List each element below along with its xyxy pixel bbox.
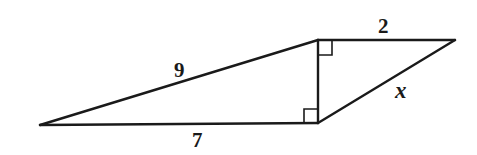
label-7: 7 (192, 128, 203, 152)
label-9: 9 (174, 58, 185, 82)
right-angle-marker-top (318, 40, 332, 55)
geometry-diagram: 9 7 2 x (0, 0, 477, 155)
segment-bd-hypotenuse (318, 40, 455, 123)
diagram-canvas: 9 7 2 x (0, 0, 477, 155)
segment-ab-base (40, 123, 318, 125)
segment-ac-hypotenuse (40, 40, 318, 125)
label-x: x (394, 78, 407, 103)
label-2: 2 (378, 14, 389, 38)
right-angle-marker-bottom (304, 109, 318, 123)
